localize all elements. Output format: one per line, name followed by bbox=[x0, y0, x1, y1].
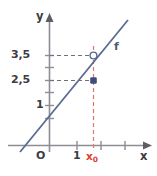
function-name-label: f bbox=[114, 41, 119, 52]
x-axis bbox=[8, 141, 152, 150]
y-axis-label: y bbox=[36, 11, 44, 23]
y-axis bbox=[45, 13, 54, 152]
open-point-marker bbox=[90, 52, 97, 59]
origin-label: O bbox=[36, 150, 45, 161]
x0-annotation-label: x0 bbox=[86, 151, 98, 162]
x0-base: x bbox=[86, 150, 93, 162]
function-graph-figure: 3,5 2,5 1 1 x0 O y x f bbox=[0, 0, 157, 176]
y-tick-label-1: 1 bbox=[36, 99, 43, 110]
x0-subscript: 0 bbox=[93, 155, 98, 164]
x-tick-label-1: 1 bbox=[73, 150, 80, 161]
x-axis-label: x bbox=[140, 151, 147, 163]
y-tick-label-3-5: 3,5 bbox=[11, 49, 30, 60]
function-line-f bbox=[20, 20, 128, 152]
filled-point-marker bbox=[90, 77, 97, 84]
y-tick-label-2-5: 2,5 bbox=[11, 74, 30, 85]
